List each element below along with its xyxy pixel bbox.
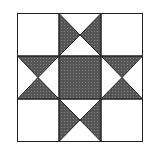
center-square — [59, 56, 101, 99]
ohio-star-quilt-block — [0, 0, 151, 148]
